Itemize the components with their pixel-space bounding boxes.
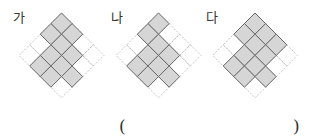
answer-open-paren: ( [119, 116, 126, 136]
figure-2 [116, 13, 201, 98]
grid-cell [83, 45, 104, 66]
figure-1 [19, 13, 104, 98]
answer-close-paren: ) [293, 116, 300, 136]
figure-3 [213, 13, 298, 98]
grid-cell [180, 45, 201, 66]
answer-blank[interactable] [135, 118, 290, 136]
